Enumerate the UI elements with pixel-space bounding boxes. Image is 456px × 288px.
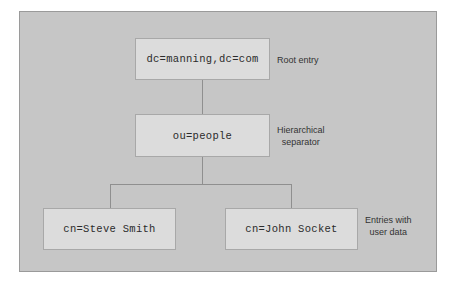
node-entry-steve-smith: cn=Steve Smith [43, 208, 176, 250]
node-root-entry: dc=manning,dc=com [135, 38, 270, 80]
node-organizational-unit: ou=people [135, 114, 270, 157]
node-entry-john-socket: cn=John Socket [225, 208, 358, 250]
annotation-root-entry: Root entry [277, 54, 319, 66]
diagram-canvas: dc=manning,dc=com ou=people cn=Steve Smi… [0, 0, 456, 288]
annotation-user-data-entries: Entries with user data [365, 214, 412, 238]
annotation-hierarchical-separator: Hierarchical separator [277, 124, 325, 148]
